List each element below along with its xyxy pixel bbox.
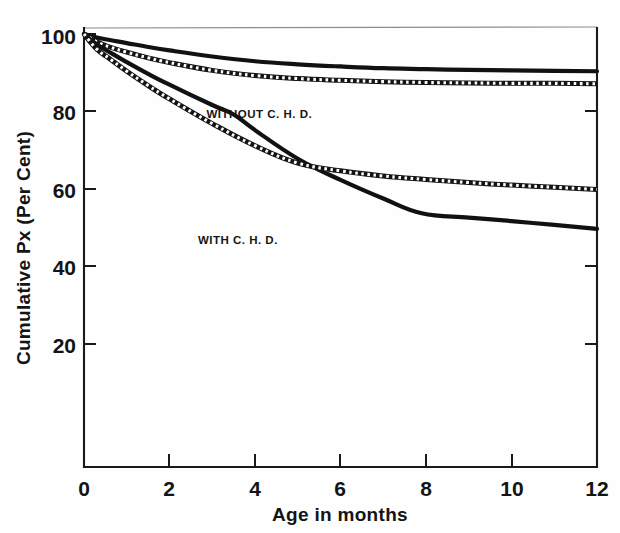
chart-canvas: 100 80 60 40 20 0 2 4 6 8 10 12 Age in m… bbox=[0, 0, 620, 533]
y-tick-label-60: 60 bbox=[53, 179, 76, 202]
y-tick-label-40: 40 bbox=[53, 256, 76, 279]
series-band-base-with-c-h-d-lower-confidence-band bbox=[84, 34, 597, 189]
x-tick-label-10: 10 bbox=[500, 477, 523, 500]
data-series-group bbox=[84, 34, 597, 229]
x-tick-label-6: 6 bbox=[334, 477, 346, 500]
chart-figure: 100 80 60 40 20 0 2 4 6 8 10 12 Age in m… bbox=[0, 0, 620, 533]
top-rule bbox=[84, 27, 597, 28]
y-axis-title: Cumulative Px (Per Cent) bbox=[13, 131, 34, 365]
x-tick-label-0: 0 bbox=[78, 477, 90, 500]
series-line-without-c-h-d bbox=[84, 34, 597, 71]
y-tick-label-80: 80 bbox=[53, 101, 76, 124]
series-annotation-with-c-h-d: WITH C. H. D. bbox=[198, 234, 278, 246]
y-tick-marks bbox=[84, 34, 96, 344]
x-tick-marks bbox=[169, 454, 512, 467]
series-annotation-without-c-h-d: WITHOUT C. H. D. bbox=[206, 108, 312, 120]
y-tick-label-20: 20 bbox=[53, 334, 76, 357]
x-axis-title: Age in months bbox=[272, 504, 408, 525]
x-tick-label-2: 2 bbox=[163, 477, 175, 500]
x-tick-labels: 0 2 4 6 8 10 12 bbox=[78, 477, 609, 500]
series-band-hatch-with-c-h-d-lower-confidence-band bbox=[84, 34, 597, 189]
y-tick-labels: 100 80 60 40 20 bbox=[41, 25, 76, 357]
y-tick-label-100: 100 bbox=[41, 25, 76, 48]
x-tick-label-4: 4 bbox=[249, 477, 261, 500]
x-tick-label-12: 12 bbox=[585, 477, 608, 500]
series-band-base-without-c-h-d-lower-confidence-band bbox=[84, 34, 597, 84]
x-tick-label-8: 8 bbox=[420, 477, 432, 500]
